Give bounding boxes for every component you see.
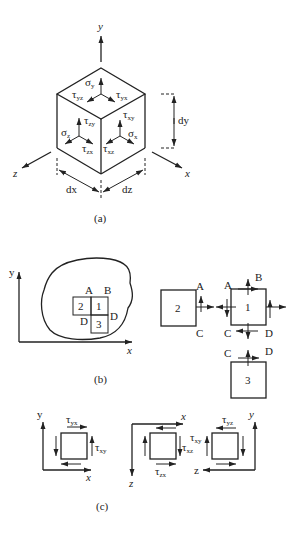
svg-text:3: 3	[96, 318, 102, 330]
dy-dimension: dy	[161, 94, 190, 148]
svg-text:1: 1	[96, 300, 102, 312]
svg-text:x: x	[85, 471, 91, 483]
dy-label: dy	[178, 114, 190, 126]
svg-text:A: A	[224, 279, 232, 291]
svg-text:D: D	[110, 310, 118, 322]
svg-text:τyx: τyx	[66, 413, 78, 427]
b-y-label: y	[9, 266, 15, 278]
caption-a: (a)	[94, 212, 107, 225]
element-2: 2 A C	[161, 280, 214, 339]
svg-text:y: y	[37, 408, 43, 420]
left-face-stresses: τzy σz τzx	[61, 114, 96, 156]
svg-text:z: z	[128, 477, 134, 489]
svg-text:y: y	[248, 408, 254, 420]
svg-text:2: 2	[78, 300, 84, 312]
svg-text:τxz: τxz	[182, 441, 193, 455]
svg-text:C: C	[224, 347, 231, 359]
svg-text:τyz: τyz	[222, 413, 233, 427]
tau-zx-label: τzx	[82, 142, 94, 156]
svg-text:B: B	[104, 284, 111, 296]
y-axis-label: y	[97, 20, 103, 32]
svg-text:1: 1	[245, 301, 251, 313]
caption-b: (b)	[94, 373, 107, 386]
stress-element-figure: y z x σy τyz τyx τzy	[0, 0, 305, 533]
panel-a: y z x σy τyz τyx τzy	[12, 20, 190, 225]
sigma-z-label: σz	[61, 126, 70, 140]
sigma-x-label: σx	[128, 127, 138, 141]
dx-label: dx	[66, 183, 78, 195]
element-3: 3 C D	[224, 345, 273, 398]
tau-yz-label: τyz	[72, 88, 83, 102]
svg-text:D: D	[265, 327, 273, 339]
svg-text:τxy: τxy	[190, 431, 202, 445]
dz-label: dz	[122, 183, 133, 195]
svg-text:3: 3	[245, 374, 251, 386]
svg-text:B: B	[255, 271, 262, 283]
caption-c: (c)	[96, 500, 109, 513]
svg-text:C: C	[196, 327, 203, 339]
view-xy: y x τyx τxy	[37, 408, 107, 483]
view-zy: y z τyz τxy	[190, 408, 255, 476]
b-x-label: x	[126, 344, 132, 356]
element-1: 1 A B C D	[216, 271, 286, 339]
body-outline	[42, 258, 133, 339]
svg-text:x: x	[180, 410, 186, 422]
x-axis-arrow	[152, 152, 182, 168]
svg-text:2: 2	[175, 302, 181, 314]
sigma-y-label: σy	[85, 76, 95, 90]
x-axis-label: x	[184, 167, 190, 179]
tau-yx-label: τyx	[116, 88, 128, 102]
svg-text:D: D	[80, 315, 88, 327]
svg-text:z: z	[194, 464, 199, 476]
panel-c: y x τyx τxy x z τxz τzx	[37, 408, 255, 513]
svg-text:C: C	[224, 327, 231, 339]
view-xz: x z τxz τzx	[128, 410, 193, 489]
tau-zy-label: τzy	[84, 114, 96, 128]
element-grid: 2 1 3 A B D D	[73, 284, 118, 333]
svg-text:A: A	[196, 280, 204, 292]
svg-text:τzx: τzx	[155, 465, 167, 479]
svg-text:A: A	[85, 284, 93, 296]
z-axis-arrow	[22, 152, 51, 168]
svg-text:τxy: τxy	[95, 441, 107, 455]
tau-xy-label: τxy	[123, 108, 135, 122]
panel-b: y x 2 1 3 A B D D 2 A C 1	[9, 258, 286, 398]
svg-text:D: D	[265, 345, 273, 357]
z-axis-label: z	[12, 167, 18, 179]
tau-xz-label: τxz	[103, 142, 114, 156]
